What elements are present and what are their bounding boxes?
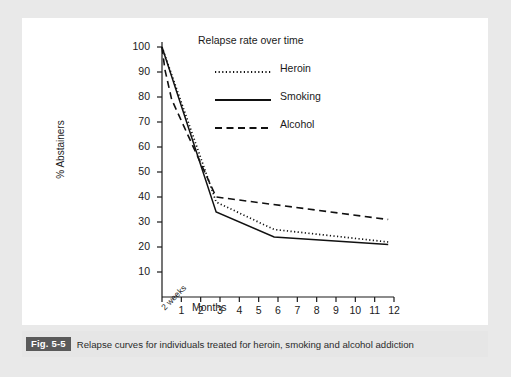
y-tick-label-60: 60	[122, 140, 150, 152]
x-tick-label-12: 12	[385, 304, 403, 316]
legend-title: Relapse rate over time	[198, 34, 304, 46]
y-tick-label-40: 40	[122, 190, 150, 202]
y-tick-label-100: 100	[122, 40, 150, 52]
legend-swatch-alcohol	[215, 119, 271, 129]
y-axis-title: % Abstainers	[55, 90, 66, 210]
x-tick-label-9: 9	[327, 304, 345, 316]
legend-swatch-heroin	[215, 63, 271, 73]
y-tick-label-90: 90	[122, 65, 150, 77]
figure-caption: Fig. 5-5 Relapse curves for individuals …	[22, 331, 488, 357]
x-tick-label-5: 5	[250, 304, 268, 316]
x-tick-label-8: 8	[308, 304, 326, 316]
figure-caption-text: Relapse curves for individuals treated f…	[77, 339, 414, 350]
y-tick-label-10: 10	[122, 265, 150, 277]
legend-swatch-smoking	[215, 91, 271, 101]
y-tick-label-30: 30	[122, 215, 150, 227]
x-tick-label-6: 6	[269, 304, 287, 316]
y-tick-label-20: 20	[122, 240, 150, 252]
x-tick-label-11: 11	[366, 304, 384, 316]
legend-label-alcohol: Alcohol	[280, 118, 314, 130]
y-tick-label-70: 70	[122, 115, 150, 127]
x-tick-label-4: 4	[230, 304, 248, 316]
y-tick-label-80: 80	[122, 90, 150, 102]
x-tick-label-7: 7	[288, 304, 306, 316]
x-tick-label-2: 2	[192, 304, 210, 316]
x-tick-label-3: 3	[211, 304, 229, 316]
legend-label-smoking: Smoking	[280, 90, 321, 102]
x-tick-label-1: 1	[172, 304, 190, 316]
figure-number-badge: Fig. 5-5	[26, 337, 71, 352]
y-tick-label-50: 50	[122, 165, 150, 177]
legend-label-heroin: Heroin	[280, 62, 311, 74]
y-axis-ticks	[157, 47, 162, 272]
figure-plate: % Abstainers Months 10090807060504030201…	[22, 18, 488, 325]
figure-container: % Abstainers Months 10090807060504030201…	[0, 0, 511, 377]
legend-item-heroin[interactable]: Heroin	[215, 62, 311, 74]
legend-item-alcohol[interactable]: Alcohol	[215, 118, 314, 130]
legend-item-smoking[interactable]: Smoking	[215, 90, 321, 102]
x-tick-label-10: 10	[346, 304, 364, 316]
series-line-heroin	[162, 47, 388, 242]
data-series-layer	[162, 47, 388, 245]
chart-plot-area: % Abstainers Months 10090807060504030201…	[22, 18, 488, 325]
